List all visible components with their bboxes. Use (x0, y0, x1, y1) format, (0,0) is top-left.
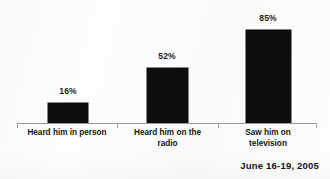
category-label-heard-him-on-the-radio: Heard him on the radio (117, 127, 218, 149)
date-range-footer: June 16-19, 2005 (240, 160, 319, 171)
bar-saw-him-on-television (246, 30, 291, 123)
x-axis-line (17, 123, 317, 124)
bar-heard-him-on-the-radio (147, 68, 188, 123)
bar-value-label-2: 85% (246, 13, 290, 23)
category-label-heard-him-in-person: Heard him in person (16, 127, 118, 138)
category-label-line: television (219, 138, 317, 149)
bar-value-label-1: 52% (145, 51, 189, 61)
category-label-line: Heard him on the (117, 127, 218, 138)
category-label-line: Saw him on (219, 127, 317, 138)
category-label-line: Heard him in person (16, 127, 118, 138)
bar-chart: 16% 52% 85% Heard him in person Heard hi… (0, 0, 330, 179)
category-label-saw-him-on-television: Saw him on television (219, 127, 317, 149)
bar-value-label-0: 16% (46, 86, 90, 96)
category-label-line: radio (117, 138, 218, 149)
bar-heard-him-in-person (48, 103, 88, 123)
